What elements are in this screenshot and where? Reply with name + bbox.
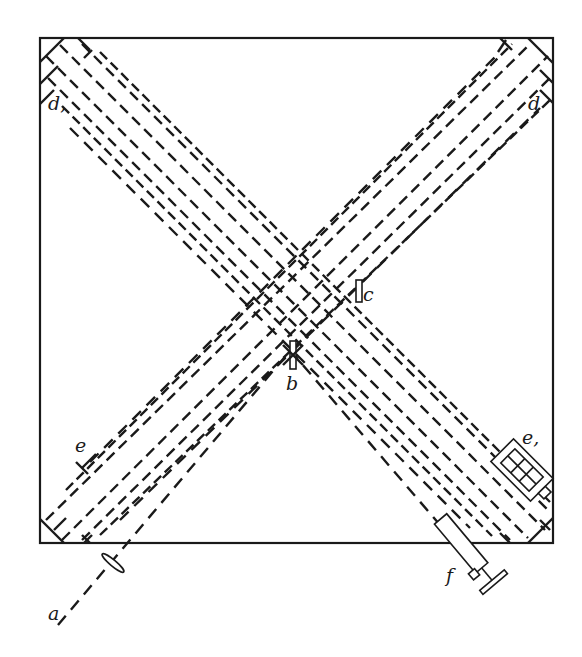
label-e1: e, (522, 426, 539, 448)
label-a: a (48, 602, 59, 624)
label-d: d (528, 92, 540, 114)
label-f: f (444, 564, 456, 586)
telescope-f (428, 509, 507, 595)
label-b: b (286, 372, 298, 394)
frame (40, 38, 553, 543)
mirror-e1-assembly (491, 439, 559, 507)
beam-bundle-tl-br (46, 44, 550, 540)
label-c: c (363, 283, 374, 305)
label-d1: d, (48, 92, 66, 114)
label-e: e (75, 434, 86, 456)
interferometer-diagram: d, d c b e e, f a (0, 0, 582, 657)
plate-c (356, 280, 362, 302)
